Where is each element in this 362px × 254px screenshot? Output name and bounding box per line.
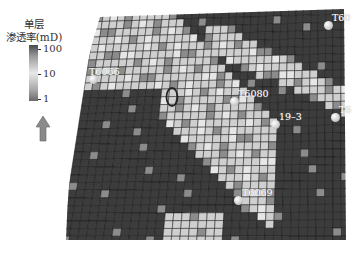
grid-cell [188, 50, 196, 58]
grid-cell [333, 38, 341, 46]
grid-cell [141, 198, 150, 206]
well-label: T6 [339, 104, 351, 115]
grid-cell [190, 112, 199, 120]
grid-cell [120, 44, 129, 52]
grid-cell [290, 228, 299, 236]
grid-cell [292, 165, 300, 173]
grid-cell [224, 205, 233, 213]
grid-cell [220, 25, 228, 33]
grid-cell [135, 182, 144, 190]
grid-cell [265, 32, 273, 40]
grid-cell [129, 229, 138, 237]
grid-cell [333, 173, 341, 181]
grid-cell [144, 35, 152, 43]
grid-cell [316, 197, 324, 205]
grid-cell [151, 105, 160, 113]
grid-cell [73, 152, 82, 160]
grid-cell [270, 102, 278, 110]
grid-cell [276, 157, 284, 165]
grid-cell [246, 103, 254, 111]
grid-cell [341, 69, 349, 77]
grid-cell [172, 135, 181, 143]
grid-cell [243, 17, 251, 25]
grid-cell [181, 213, 190, 221]
grid-cell [116, 136, 125, 144]
grid-cell [333, 196, 341, 204]
grid-cell [107, 29, 116, 37]
grid-cell [124, 74, 133, 82]
grid-cell [325, 101, 333, 109]
grid-cell [101, 182, 110, 190]
grid-cell [76, 190, 85, 198]
grid-cell [180, 50, 188, 58]
grid-cell [264, 48, 272, 56]
grid-cell [341, 173, 349, 181]
grid-cell [242, 173, 251, 181]
grid-cell [91, 90, 100, 98]
grid-cell [287, 63, 295, 71]
grid-cell [104, 52, 113, 60]
grid-cell [209, 80, 217, 88]
grid-cell [272, 55, 280, 63]
grid-cell [241, 205, 250, 213]
grid-cell [77, 129, 86, 137]
grid-cell [209, 182, 218, 190]
grid-cell [310, 62, 318, 70]
grid-cell [239, 236, 248, 244]
grid-cell [256, 64, 264, 72]
grid-cell [177, 174, 186, 182]
grid-cell [310, 94, 318, 102]
grid-cell [78, 229, 88, 237]
grid-cell [201, 182, 210, 190]
grid-cell [206, 119, 215, 127]
grid-cell [117, 190, 126, 198]
grid-cell [294, 71, 302, 79]
grid-cell [145, 159, 154, 167]
grid-cell [124, 136, 133, 144]
grid-cell [293, 126, 301, 134]
grid-cell [80, 159, 89, 167]
grid-cell [276, 150, 284, 158]
grid-cell [152, 174, 161, 182]
grid-cell [200, 189, 209, 197]
grid-cell [134, 120, 143, 128]
grid-cell [153, 27, 161, 35]
grid-cell [234, 48, 242, 56]
grid-cell [139, 12, 147, 20]
grid-cell [142, 120, 151, 128]
grid-cell [294, 78, 302, 86]
grid-cell [108, 198, 117, 206]
grid-cell [128, 105, 137, 113]
grid-cell [238, 103, 246, 111]
grid-cell [258, 205, 267, 213]
grid-cell [333, 204, 341, 212]
grid-cell [282, 212, 291, 220]
grid-cell [191, 104, 200, 112]
grid-cell [188, 143, 197, 151]
grid-cell [146, 151, 155, 159]
grid-cell [161, 19, 169, 27]
grid-cell [275, 189, 284, 197]
grid-cell [83, 198, 92, 206]
grid-cell [333, 62, 341, 70]
grid-cell [80, 213, 90, 221]
grid-cell [249, 213, 258, 221]
grid-cell [243, 166, 252, 174]
grid-cell [190, 119, 199, 127]
grid-cell [147, 74, 156, 82]
grid-cell [186, 166, 195, 174]
grid-cell [236, 17, 244, 25]
grid-cell [299, 228, 308, 236]
grid-cell [236, 9, 244, 17]
grid-cell [163, 66, 172, 74]
grid-cell [138, 82, 147, 90]
grid-cell [303, 7, 311, 15]
grid-cell [127, 174, 136, 182]
grid-cell [94, 236, 104, 244]
grid-cell [303, 23, 311, 31]
grid-cell [325, 141, 333, 149]
grid-cell [189, 228, 198, 236]
grid-cell [308, 197, 316, 205]
grid-cell [88, 221, 98, 229]
grid-cell [187, 57, 195, 65]
